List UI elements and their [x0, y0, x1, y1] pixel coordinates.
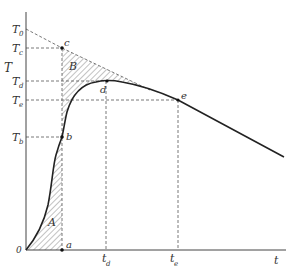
- svg-text:e: e: [19, 101, 23, 109]
- y-axis-label: T: [4, 61, 13, 75]
- region-a-label: A: [47, 216, 56, 229]
- temperature-time-diagram: T t 0 T 0 T c T d T e T b t d t e c b a …: [0, 0, 295, 273]
- point-d-marker: [105, 79, 108, 82]
- point-d-label: d: [100, 84, 106, 95]
- x-axis-label: t: [274, 254, 279, 267]
- svg-text:d: d: [106, 260, 111, 268]
- svg-text:e: e: [174, 260, 178, 268]
- origin-label: 0: [16, 245, 22, 255]
- point-e-label: e: [181, 90, 187, 101]
- y-tick-te: T e: [12, 94, 23, 109]
- point-a-marker: [60, 248, 64, 252]
- svg-text:d: d: [19, 82, 24, 90]
- y-tick-tc: T c: [12, 42, 23, 57]
- x-tick-te: t e: [170, 252, 178, 268]
- point-e-marker: [176, 98, 179, 101]
- point-b-label: b: [66, 131, 72, 142]
- svg-text:b: b: [19, 138, 24, 146]
- region-b-label: B: [68, 60, 77, 73]
- point-c-label: c: [64, 37, 70, 48]
- y-tick-td: T d: [12, 75, 24, 90]
- y-tick-tb: T b: [12, 131, 24, 146]
- point-a-label: a: [66, 239, 72, 250]
- point-b-marker: [60, 135, 64, 139]
- y-tick-t0: T 0: [12, 23, 24, 38]
- x-tick-td: t d: [102, 252, 111, 268]
- svg-text:c: c: [19, 49, 23, 57]
- dashed-tangent-t0-c: [26, 29, 62, 48]
- svg-text:0: 0: [19, 30, 24, 38]
